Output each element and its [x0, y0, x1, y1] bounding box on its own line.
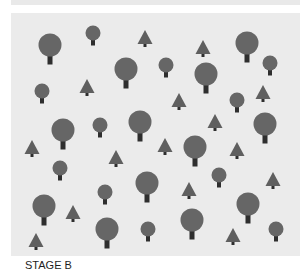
round-tree-small-icon [35, 84, 50, 104]
round-tree-small-icon [212, 168, 227, 188]
round-tree-small-icon [263, 56, 278, 76]
round-tree-large-icon [195, 63, 218, 94]
round-tree-large-icon [184, 136, 207, 167]
pine-tree-icon [172, 93, 187, 110]
round-tree-large-icon [237, 193, 260, 224]
round-tree-small-icon [269, 222, 284, 242]
round-tree-small-icon [230, 93, 245, 113]
pine-tree-icon [256, 85, 271, 102]
pine-tree-icon [226, 228, 241, 245]
pine-tree-icon [80, 79, 95, 96]
pine-tree-icon [266, 172, 281, 189]
pine-tree-icon [208, 114, 223, 131]
pine-tree-icon [29, 233, 44, 250]
forest-scene [0, 0, 308, 272]
pine-tree-icon [158, 138, 173, 155]
round-tree-large-icon [52, 119, 75, 150]
pine-tree-icon [66, 205, 81, 222]
round-tree-small-icon [98, 185, 113, 205]
round-tree-large-icon [129, 111, 152, 142]
pine-tree-icon [182, 182, 197, 199]
stage-label: STAGE B [25, 259, 72, 271]
pine-tree-icon [230, 142, 245, 159]
round-tree-large-icon [33, 195, 56, 226]
round-tree-small-icon [53, 161, 68, 181]
round-tree-small-icon [159, 58, 174, 78]
round-tree-large-icon [96, 218, 119, 249]
pine-tree-icon [196, 40, 211, 57]
round-tree-large-icon [136, 172, 159, 203]
pine-tree-icon [109, 150, 124, 167]
round-tree-large-icon [39, 34, 62, 65]
round-tree-large-icon [181, 209, 204, 240]
round-tree-small-icon [86, 26, 101, 46]
pine-tree-icon [138, 30, 153, 47]
round-tree-small-icon [141, 222, 156, 242]
pine-tree-icon [25, 140, 40, 157]
round-tree-large-icon [115, 58, 138, 89]
round-tree-small-icon [93, 118, 108, 138]
round-tree-large-icon [236, 32, 259, 63]
round-tree-large-icon [254, 113, 277, 144]
